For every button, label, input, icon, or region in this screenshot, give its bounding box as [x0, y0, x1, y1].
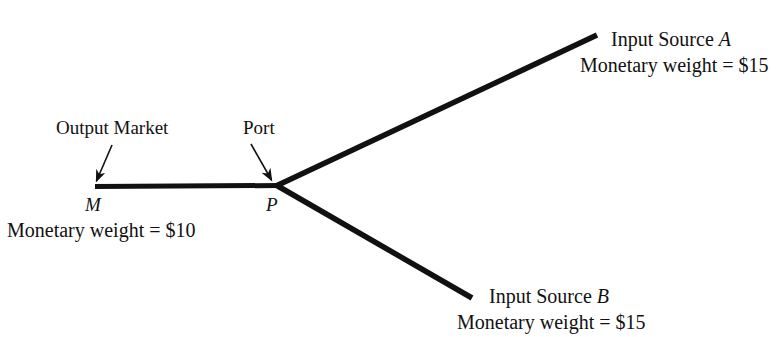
input-source-a-monetary-weight-caption: Monetary weight = $15 [580, 55, 768, 75]
port-pointer-arrow [251, 144, 272, 180]
network-diagram: Output Market Port M P Monetary weight =… [0, 0, 778, 337]
node-label-p: P [266, 195, 278, 214]
input-source-a-letter: A [719, 28, 731, 50]
input-source-b-label: Input Source B [489, 286, 609, 306]
edge-market-to-port [95, 186, 278, 187]
diagram-canvas [0, 0, 778, 337]
input-source-b-monetary-weight-caption: Monetary weight = $15 [457, 312, 645, 332]
input-source-a-prefix: Input Source [611, 28, 719, 50]
input-source-b-prefix: Input Source [489, 285, 597, 307]
market-monetary-weight-caption: Monetary weight = $10 [7, 220, 195, 240]
output-market-label: Output Market [56, 118, 168, 137]
input-source-b-letter: B [597, 285, 609, 307]
edge-port-to-source-b [276, 185, 472, 298]
output-market-pointer-arrow [97, 145, 113, 181]
port-label: Port [243, 118, 275, 137]
edge-port-to-source-a [276, 35, 597, 186]
node-label-m: M [85, 195, 101, 214]
input-source-a-label: Input Source A [611, 29, 731, 49]
